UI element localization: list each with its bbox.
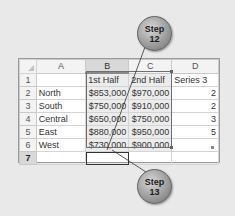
spreadsheet-grid: A B C D 1 1st Half 2nd Half Series 3 2 N… bbox=[18, 58, 220, 163]
column-header-c[interactable]: C bbox=[129, 60, 172, 74]
range-resize-handle-bottom[interactable] bbox=[170, 146, 173, 149]
row-header-2[interactable]: 2 bbox=[20, 87, 37, 100]
cell-d6[interactable] bbox=[172, 139, 219, 152]
row-header-5[interactable]: 5 bbox=[20, 126, 37, 139]
cell-a5[interactable]: East bbox=[36, 126, 86, 139]
cell-d4[interactable]: 3 bbox=[172, 113, 219, 126]
step-12-callout: Step 12 bbox=[137, 16, 172, 51]
cell-c4[interactable]: $750,000 bbox=[129, 113, 172, 126]
step-13-label: Step bbox=[145, 177, 165, 187]
cell-b1[interactable]: 1st Half bbox=[86, 73, 129, 87]
cell-table: A B C D 1 1st Half 2nd Half Series 3 2 N… bbox=[19, 59, 219, 165]
cell-b7-active[interactable] bbox=[86, 152, 129, 165]
step-13-callout: Step 13 bbox=[137, 169, 172, 204]
cell-a1[interactable] bbox=[36, 73, 86, 87]
cell-c2[interactable]: $970,000 bbox=[129, 87, 172, 100]
cell-b6[interactable]: $730,000 bbox=[86, 139, 129, 152]
cell-d2[interactable]: 2 bbox=[172, 87, 219, 100]
cell-b3[interactable]: $750,000 bbox=[86, 100, 129, 113]
row-header-3[interactable]: 3 bbox=[20, 100, 37, 113]
column-header-d[interactable]: D bbox=[172, 60, 219, 74]
step-13-number: 13 bbox=[149, 187, 159, 197]
cell-a2[interactable]: North bbox=[36, 87, 86, 100]
column-header-b[interactable]: B bbox=[86, 60, 129, 74]
cell-d5[interactable]: 5 bbox=[172, 126, 219, 139]
step-12-label: Step bbox=[145, 24, 165, 34]
cell-d3[interactable]: 2 bbox=[172, 100, 219, 113]
cell-b4[interactable]: $650,000 bbox=[86, 113, 129, 126]
cell-c7[interactable] bbox=[129, 152, 172, 165]
select-all-corner[interactable] bbox=[20, 60, 37, 74]
cell-d7[interactable] bbox=[172, 152, 219, 165]
row-header-6[interactable]: 6 bbox=[20, 139, 37, 152]
cell-a3[interactable]: South bbox=[36, 100, 86, 113]
row-header-7[interactable]: 7 bbox=[20, 152, 37, 165]
row-header-4[interactable]: 4 bbox=[20, 113, 37, 126]
range-resize-handle-top[interactable] bbox=[170, 70, 173, 73]
cell-c1[interactable]: 2nd Half bbox=[129, 73, 172, 87]
cell-b5[interactable]: $880,000 bbox=[86, 126, 129, 139]
cell-a4[interactable]: Central bbox=[36, 113, 86, 126]
row-header-1[interactable]: 1 bbox=[20, 73, 37, 87]
column-header-a[interactable]: A bbox=[36, 60, 86, 74]
step-12-number: 12 bbox=[149, 34, 159, 44]
cell-a7[interactable] bbox=[36, 152, 86, 165]
series-resize-handle[interactable] bbox=[211, 146, 214, 149]
cell-c3[interactable]: $910,000 bbox=[129, 100, 172, 113]
cell-c5[interactable]: $950,000 bbox=[129, 126, 172, 139]
cell-d1[interactable]: Series 3 bbox=[172, 73, 219, 87]
cell-c6[interactable]: $900,000 bbox=[129, 139, 172, 152]
cell-a6[interactable]: West bbox=[36, 139, 86, 152]
cell-b2[interactable]: $853,000 bbox=[86, 87, 129, 100]
